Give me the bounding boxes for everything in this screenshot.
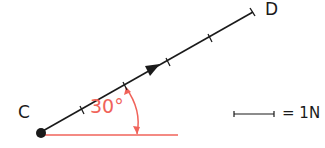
scale-label: = 1N (282, 104, 320, 122)
label-d: D (265, 0, 278, 19)
end-tick (250, 8, 255, 16)
force-vector-line (41, 12, 253, 132)
origin-point (36, 128, 46, 138)
angle-label: 30° (90, 95, 124, 117)
vector-diagram (0, 0, 325, 148)
label-c: C (18, 102, 30, 122)
angle-arrowhead-bottom (133, 126, 140, 134)
direction-arrowhead (145, 64, 160, 76)
